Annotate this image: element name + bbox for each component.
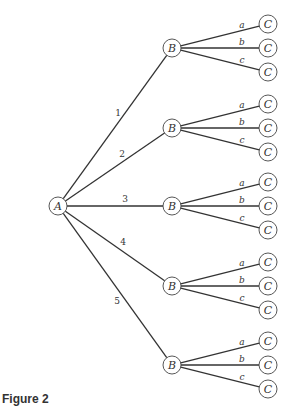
node-c-label: C	[264, 200, 273, 213]
node-b1: B	[163, 39, 181, 57]
edge-b3-c1	[181, 184, 260, 204]
edge-a-b5	[63, 213, 167, 357]
edge-a-b2	[65, 133, 164, 201]
node-c: C	[259, 39, 277, 57]
leaf-edge-label-a: a	[239, 178, 244, 188]
edge-b5-c1	[181, 343, 260, 363]
leaf-edge-label-a: a	[239, 20, 244, 30]
node-c-label: C	[264, 42, 273, 55]
node-c: C	[259, 301, 277, 319]
node-c: C	[259, 356, 277, 374]
edge-b2-c3	[181, 130, 260, 150]
leaf-edge-label-c: c	[239, 372, 244, 382]
node-b4: B	[163, 277, 181, 295]
node-a-label: A	[53, 200, 62, 213]
node-b2: B	[163, 119, 181, 137]
node-c-label: C	[264, 224, 273, 237]
edge-label-4: 4	[120, 237, 126, 247]
leaf-edge-label-b: b	[239, 117, 245, 127]
leaf-edge-label-a: a	[239, 258, 244, 268]
node-c: C	[259, 277, 277, 295]
node-c-label: C	[264, 18, 273, 31]
tree-diagram: 1abc2abc3abc4abc5abcCCCBCCCBCCCBCCCBCCCB…	[0, 0, 292, 416]
node-c-label: C	[264, 256, 273, 269]
node-c-label: C	[264, 383, 273, 396]
node-c-label: C	[264, 122, 273, 135]
edge-b4-c1	[181, 264, 260, 284]
node-b5: B	[163, 356, 181, 374]
figure-caption: Figure 2	[2, 392, 49, 406]
node-c-label: C	[264, 335, 273, 348]
leaf-edge-label-c: c	[239, 135, 244, 145]
leaf-edge-label-c: c	[239, 213, 244, 223]
node-c-label: C	[264, 176, 273, 189]
edge-a-b4	[65, 211, 164, 281]
edge-label-1: 1	[115, 108, 121, 118]
leaf-edge-label-b: b	[239, 354, 245, 364]
node-c: C	[259, 332, 277, 350]
node-c-label: C	[264, 146, 273, 159]
edge-label-2: 2	[119, 149, 125, 159]
leaf-edge-label-a: a	[239, 100, 244, 110]
edge-b3-c3	[181, 208, 260, 228]
leaf-edge-label-b: b	[239, 195, 245, 205]
node-b1-label: B	[167, 42, 176, 55]
node-a: A	[49, 197, 67, 215]
node-c: C	[259, 63, 277, 81]
edge-b5-c3	[181, 367, 260, 387]
edge-b1-c1	[181, 26, 260, 46]
node-c: C	[259, 95, 277, 113]
edges	[63, 26, 259, 387]
leaf-edge-label-b: b	[239, 275, 245, 285]
node-c: C	[259, 119, 277, 137]
node-b4-label: B	[167, 280, 176, 293]
node-c-label: C	[264, 359, 273, 372]
node-c: C	[259, 15, 277, 33]
edge-a-b1	[63, 55, 166, 198]
edge-b4-c3	[181, 288, 260, 308]
node-c-label: C	[264, 280, 273, 293]
node-c-label: C	[264, 98, 273, 111]
node-c: C	[259, 197, 277, 215]
node-b3: B	[163, 197, 181, 215]
node-c-label: C	[264, 66, 273, 79]
node-c: C	[259, 143, 277, 161]
edge-label-3: 3	[122, 194, 128, 204]
node-c: C	[259, 380, 277, 398]
leaf-edge-label-c: c	[239, 55, 244, 65]
node-b5-label: B	[167, 359, 176, 372]
node-b3-label: B	[167, 200, 176, 213]
node-c-label: C	[264, 304, 273, 317]
leaf-edge-label-b: b	[239, 37, 245, 47]
node-c: C	[259, 173, 277, 191]
node-c: C	[259, 253, 277, 271]
node-b2-label: B	[167, 122, 176, 135]
edge-b2-c1	[181, 106, 260, 126]
leaf-edge-label-a: a	[239, 337, 244, 347]
edge-b1-c3	[181, 50, 260, 70]
node-c: C	[259, 221, 277, 239]
edge-label-5: 5	[114, 296, 120, 306]
leaf-edge-label-c: c	[239, 293, 244, 303]
